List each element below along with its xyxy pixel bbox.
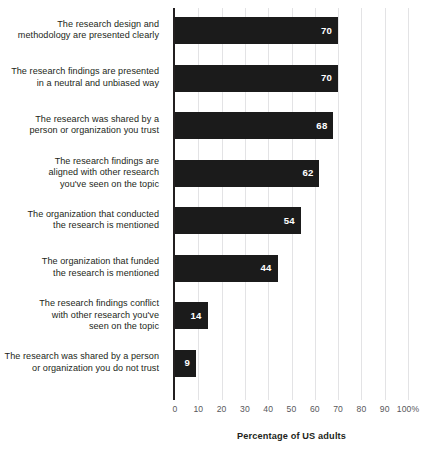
x-tick-label: 30 (240, 404, 250, 414)
bar: 14 (175, 302, 208, 329)
category-label: The research was shared by a person or o… (0, 114, 168, 137)
bar-value-label: 62 (302, 168, 313, 178)
plot-area: 707068625444149 (175, 8, 408, 400)
category-label: The research findings are aligned with o… (0, 156, 168, 191)
gridline (408, 8, 409, 400)
bar-value-label: 70 (321, 26, 332, 36)
gridline (338, 8, 339, 400)
category-label: The research design and methodology are … (0, 19, 168, 42)
bar: 44 (175, 255, 278, 282)
bar: 70 (175, 17, 338, 44)
gridline (385, 8, 386, 400)
bar: 62 (175, 160, 319, 187)
category-label-column: The research design and methodology are … (0, 0, 168, 400)
x-axis-title: Percentage of US adults (175, 431, 408, 441)
category-label: The research findings are presented in a… (0, 66, 168, 89)
x-tick-label: 60 (310, 404, 320, 414)
x-tick-label: 0 (173, 404, 178, 414)
x-tick-label: 20 (217, 404, 227, 414)
gridline (361, 8, 362, 400)
x-tick-label: 90 (380, 404, 390, 414)
category-label: The organization that funded the researc… (0, 256, 168, 279)
bar: 54 (175, 207, 301, 234)
bar-chart: The research design and methodology are … (0, 0, 430, 462)
bar-value-label: 44 (260, 263, 271, 273)
category-label: The research findings conflict with othe… (0, 298, 168, 333)
bar-value-label: 70 (321, 73, 332, 83)
x-tick-label: 80 (357, 404, 367, 414)
bar-value-label: 14 (191, 311, 202, 321)
x-tick-label: 100% (397, 404, 419, 414)
bar: 9 (175, 350, 196, 377)
x-tick-label: 50 (287, 404, 297, 414)
x-axis-tick-labels: 0102030405060708090100% (175, 404, 408, 420)
bar: 70 (175, 65, 338, 92)
bar-value-label: 54 (284, 216, 295, 226)
x-tick-label: 40 (263, 404, 273, 414)
bar: 68 (175, 112, 333, 139)
x-tick-label: 70 (333, 404, 343, 414)
x-tick-label: 10 (193, 404, 203, 414)
category-label: The research was shared by a person or o… (0, 351, 168, 374)
category-label: The organization that conducted the rese… (0, 209, 168, 232)
bar-value-label: 9 (184, 358, 190, 368)
bar-value-label: 68 (316, 121, 327, 131)
